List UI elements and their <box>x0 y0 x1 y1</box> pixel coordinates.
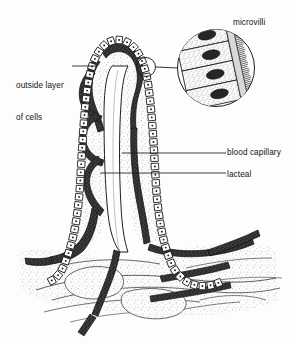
epithelial-cell-nucleus <box>149 100 151 102</box>
epithelial-cell-nucleus <box>154 157 156 159</box>
epithelial-cell-nucleus <box>144 68 146 70</box>
epithelial-cell-nucleus <box>159 223 161 225</box>
epithelial-cell-nucleus <box>155 182 157 184</box>
epithelial-cell-nucleus <box>154 166 156 168</box>
epithelial-cell-nucleus <box>167 254 169 256</box>
epithelial-cell-nucleus <box>154 174 156 176</box>
epithelial-cell-nucleus <box>79 180 81 182</box>
epithelial-cell-nucleus <box>201 285 203 287</box>
villus-diagram-figure: outside layer of cells microvilli blood … <box>0 0 296 344</box>
label-outside-layer: outside layer of cells <box>16 60 64 144</box>
label-microvilli: microvilli <box>233 18 265 29</box>
epithelial-cell-nucleus <box>81 147 83 149</box>
label-blood-capillary: blood capillary <box>227 148 281 159</box>
epithelial-cell-nucleus <box>217 282 219 284</box>
epithelial-cell-nucleus <box>153 141 155 143</box>
epithelial-cell-nucleus <box>78 196 80 198</box>
epithelial-cell-nucleus <box>151 125 153 127</box>
epithelial-cell-nucleus <box>151 116 153 118</box>
epithelial-cell-nucleus <box>137 53 139 55</box>
epithelial-cell-nucleus <box>94 58 96 60</box>
epithelial-cell-nucleus <box>165 247 167 249</box>
epithelial-cell-nucleus <box>89 73 91 75</box>
epithelial-cell-nucleus <box>79 188 81 190</box>
epithelial-cell-nucleus <box>147 84 149 86</box>
epithelial-cell-nucleus <box>152 133 154 135</box>
epithelial-cell-nucleus <box>170 262 172 264</box>
epithelial-cell-nucleus <box>210 284 212 286</box>
epithelial-cell-nucleus <box>57 274 59 276</box>
epithelial-cell-nucleus <box>82 130 84 132</box>
epithelial-cell-nucleus <box>163 239 165 241</box>
epithelial-cell-nucleus <box>86 90 88 92</box>
epithelial-cell-nucleus <box>74 228 76 230</box>
label-lacteal: lacteal <box>227 170 251 181</box>
label-outside-layer-line2: of cells <box>16 113 64 124</box>
epithelial-cell-nucleus <box>118 39 120 41</box>
epithelial-cell-nucleus <box>141 60 143 62</box>
epithelial-cell-nucleus <box>80 163 82 165</box>
epithelial-cell-nucleus <box>65 260 67 262</box>
epithelial-cell-nucleus <box>84 106 86 108</box>
microvillus-hair <box>248 96 255 98</box>
microvillus-hair <box>247 92 254 94</box>
epithelial-cell-nucleus <box>72 236 74 238</box>
microvillus-hair <box>234 29 242 31</box>
epithelial-cell-nucleus <box>83 122 85 124</box>
microvilli-inset <box>173 18 255 111</box>
epithelial-cell-nucleus <box>110 40 112 42</box>
epithelial-cell-nucleus <box>51 280 53 282</box>
epithelial-cell-nucleus <box>103 45 105 47</box>
epithelial-cell-nucleus <box>84 114 86 116</box>
epithelial-cell-nucleus <box>81 155 83 157</box>
epithelial-cell-nucleus <box>179 276 181 278</box>
microvillus-hair <box>247 94 253 96</box>
callout-connector-line <box>156 67 178 68</box>
epithelial-cell-nucleus <box>193 284 195 286</box>
microvillus-hair <box>234 31 241 33</box>
epithelial-cell-nucleus <box>186 281 188 283</box>
epithelial-cell-nucleus <box>68 252 70 254</box>
epithelial-cell-nucleus <box>153 149 155 151</box>
epithelial-cell-nucleus <box>126 41 128 43</box>
epithelial-cell-nucleus <box>158 215 160 217</box>
epithelial-cell-nucleus <box>82 139 84 141</box>
epithelial-cell-nucleus <box>98 51 100 53</box>
epithelial-cell-nucleus <box>133 46 135 48</box>
epithelial-cell-nucleus <box>80 171 82 173</box>
epithelial-cell-nucleus <box>62 267 64 269</box>
epithelial-cell-nucleus <box>150 108 152 110</box>
epithelial-cell-nucleus <box>156 198 158 200</box>
label-outside-layer-line1: outside layer <box>16 81 64 92</box>
epithelial-cell-nucleus <box>77 204 79 206</box>
epithelial-cell-nucleus <box>148 92 150 94</box>
epithelial-cell-nucleus <box>75 220 77 222</box>
villus-diagram-svg <box>0 0 296 344</box>
epithelial-cell-nucleus <box>161 231 163 233</box>
epithelial-cell-nucleus <box>174 269 176 271</box>
epithelial-cell-nucleus <box>70 244 72 246</box>
epithelial-cell-nucleus <box>87 82 89 84</box>
epithelial-cell-nucleus <box>155 190 157 192</box>
epithelial-cell-nucleus <box>85 98 87 100</box>
epithelial-cell-nucleus <box>157 206 159 208</box>
epithelial-cell-nucleus <box>76 212 78 214</box>
